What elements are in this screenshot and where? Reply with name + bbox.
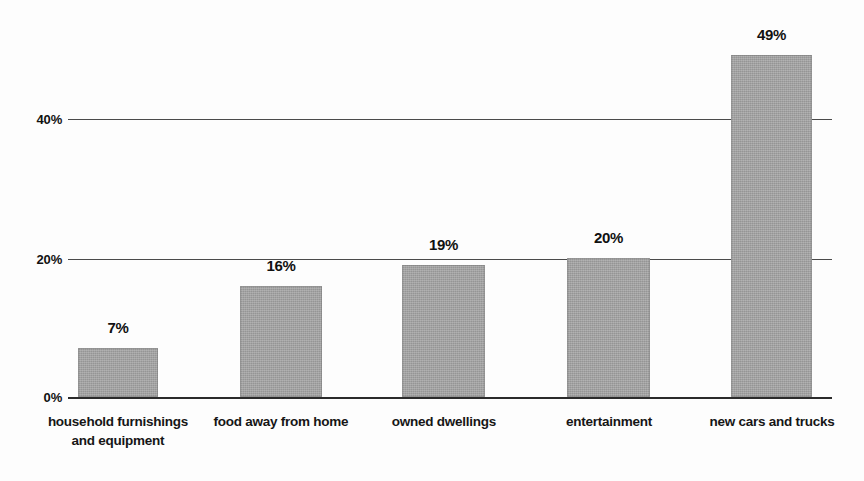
x-label-household-furnishings-and-equipment: household furnishings and equipment bbox=[38, 412, 198, 450]
gridline-40 bbox=[68, 119, 832, 120]
x-label-owned-dwellings: owned dwellings bbox=[368, 412, 520, 431]
x-label-entertainment: entertainment bbox=[535, 412, 683, 431]
axis-baseline-0 bbox=[68, 397, 832, 399]
bar-new-cars-and-trucks[interactable] bbox=[731, 55, 812, 397]
bar-household-furnishings-and-equipment[interactable] bbox=[78, 348, 158, 397]
bar-entertainment[interactable] bbox=[567, 258, 650, 397]
x-label-new-cars-and-trucks: new cars and trucks bbox=[692, 412, 852, 431]
gridline-20 bbox=[68, 259, 832, 260]
bar-food-away-from-home[interactable] bbox=[240, 286, 322, 397]
bar-value-household-furnishings-and-equipment: 7% bbox=[78, 320, 158, 335]
y-tick-label-20: 20% bbox=[14, 253, 62, 266]
bar-value-new-cars-and-trucks: 49% bbox=[731, 27, 812, 42]
bar-value-food-away-from-home: 16% bbox=[240, 258, 322, 273]
bar-chart: 40% 20% 0% 7% 16% 19% 20% 49% household … bbox=[0, 0, 864, 481]
y-tick-label-40: 40% bbox=[14, 113, 62, 126]
bar-owned-dwellings[interactable] bbox=[402, 265, 485, 397]
y-tick-label-0: 0% bbox=[14, 391, 62, 404]
bar-value-entertainment: 20% bbox=[567, 230, 650, 245]
plot-area: 40% 20% 0% 7% 16% 19% 20% 49% household … bbox=[0, 0, 864, 481]
bar-value-owned-dwellings: 19% bbox=[402, 237, 485, 252]
x-label-food-away-from-home: food away from home bbox=[195, 412, 367, 431]
